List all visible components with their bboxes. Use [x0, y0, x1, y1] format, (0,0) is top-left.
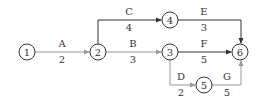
node-2: 2 [90, 44, 106, 60]
node-5-label: 5 [201, 80, 207, 91]
node-3: 3 [162, 44, 178, 60]
activity-d-duration: 2 [178, 87, 184, 98]
activity-f-duration: 5 [201, 54, 207, 65]
activity-f-label: F [201, 38, 208, 49]
activity-d-label: D [177, 71, 185, 82]
activity-f: F 5 [178, 38, 231, 65]
activity-c-label: C [125, 6, 133, 17]
node-5: 5 [196, 77, 212, 93]
node-6-label: 6 [237, 47, 243, 58]
activity-a: A 2 [35, 38, 89, 65]
activity-g-duration: 5 [224, 87, 230, 98]
node-1: 1 [19, 44, 35, 60]
node-4-label: 4 [167, 15, 173, 26]
network-diagram: A 2 B 3 C 4 D 2 E 3 F 5 G 5 1 [0, 0, 264, 104]
activity-b-duration: 3 [130, 54, 136, 65]
node-1-label: 1 [24, 47, 30, 58]
activity-e-duration: 3 [201, 22, 207, 33]
activity-d: D 2 [170, 60, 195, 98]
node-4: 4 [162, 12, 178, 28]
activity-e-label: E [200, 6, 207, 17]
activity-b: B 3 [106, 38, 161, 65]
activity-a-label: A [57, 38, 66, 49]
node-3-label: 3 [167, 47, 173, 58]
activity-b-label: B [129, 38, 136, 49]
activity-g-label: G [223, 71, 231, 82]
activity-c-duration: 4 [126, 22, 132, 33]
activity-e: E 3 [178, 6, 241, 43]
activity-g: G 5 [212, 61, 241, 98]
activity-a-duration: 2 [59, 54, 65, 65]
node-2-label: 2 [95, 47, 101, 58]
node-6: 6 [232, 44, 248, 60]
